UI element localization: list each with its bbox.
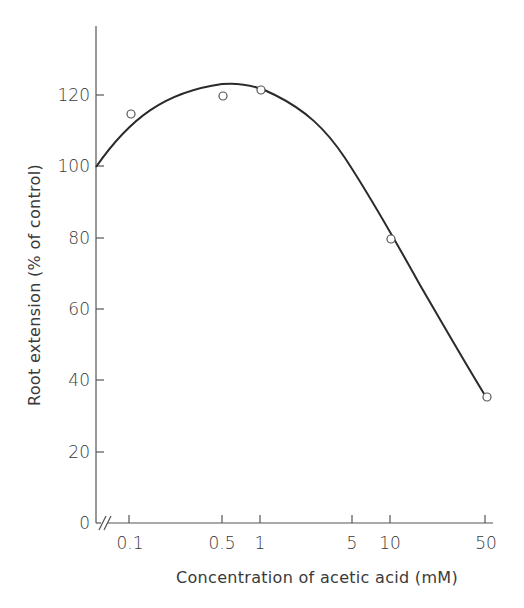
data-point [483,393,491,401]
x-tick-label: 10 [379,533,401,553]
y-tick-label: 60 [68,299,90,319]
x-tick-label: 0.5 [208,533,235,553]
x-tick-label: 1 [255,533,266,553]
data-points [127,86,491,401]
data-point [387,235,395,243]
y-tick-label: 120 [58,85,90,105]
x-tick-labels: 0.1 0.5 1 5 10 50 [116,533,496,553]
x-tick-label: 5 [347,533,358,553]
y-tick-label: 100 [58,156,90,176]
data-point [219,92,227,100]
x-ticks [129,515,485,523]
y-tick-label: 40 [68,370,90,390]
y-tick-label: 0 [79,513,90,533]
chart: 120 100 80 60 40 20 0 0.1 0.5 1 5 10 50 … [0,0,524,608]
x-axis-title: Concentration of acetic acid (mM) [176,568,458,587]
y-tick-labels: 120 100 80 60 40 20 0 [58,85,90,533]
y-tick-label: 20 [68,442,90,462]
data-point [257,86,265,94]
x-tick-label: 0.1 [116,533,143,553]
data-point [127,110,135,118]
y-tick-label: 80 [68,228,90,248]
fitted-curve [96,84,486,397]
x-tick-label: 50 [475,533,497,553]
y-ticks [96,95,104,452]
y-axis-title: Root extension (% of control) [25,164,44,406]
